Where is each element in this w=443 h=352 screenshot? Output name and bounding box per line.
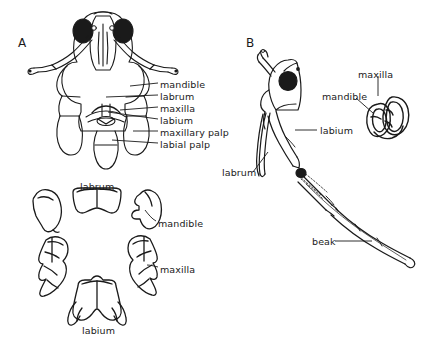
- label-b-labrum: labrum: [222, 168, 256, 178]
- detached-mouthparts: [33, 188, 161, 325]
- label-a-maxillary-palp: maxillary palp: [160, 128, 229, 138]
- label-detached-labrum: labrum: [80, 182, 114, 192]
- panel-letter-b: B: [246, 36, 254, 50]
- label-a-labium: labium: [160, 116, 193, 126]
- label-a-labial-palp: labial palp: [160, 140, 210, 150]
- label-a-maxilla: maxilla: [160, 104, 195, 114]
- label-b-beak: beak: [312, 237, 336, 247]
- panel-a-head: [28, 12, 178, 169]
- panel-a-leaders: [106, 83, 158, 143]
- label-b-maxilla: maxilla: [358, 70, 393, 80]
- label-b-mandible: mandible: [322, 92, 367, 102]
- label-a-labrum: labrum: [160, 92, 194, 102]
- mouthparts-figure: A B mandible labrum maxilla labium maxil…: [0, 0, 443, 352]
- detached-leaders: [145, 210, 158, 267]
- panel-letter-a: A: [18, 36, 26, 50]
- maxilla-cross-section: [367, 97, 409, 139]
- label-detached-labium: labium: [82, 326, 115, 336]
- label-detached-mandible: mandible: [158, 219, 203, 229]
- label-detached-maxilla: maxilla: [160, 265, 195, 275]
- label-b-labium: labium: [320, 126, 353, 136]
- label-a-mandible: mandible: [160, 80, 205, 90]
- panel-b-head: [257, 50, 415, 268]
